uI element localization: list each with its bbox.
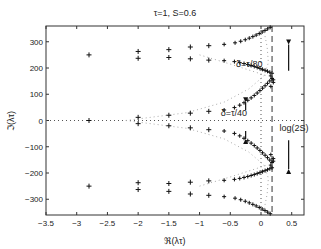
eigenvalue-marker	[268, 79, 272, 83]
eigenvalue-marker	[206, 193, 211, 198]
x-axis-label: ℜ(λτ)	[164, 236, 185, 246]
eigenvalue-marker	[263, 84, 267, 88]
eigenvalue-marker	[233, 41, 237, 45]
eigenvalue-marker	[255, 146, 259, 150]
eigenvalue-marker	[206, 178, 211, 183]
x-tick-label: −0.5	[222, 219, 238, 228]
eigenvalue-marker	[136, 49, 141, 54]
arrow-up-right-head	[286, 39, 291, 44]
eigenvalue-marker	[188, 125, 193, 130]
eigenvalue-marker	[252, 144, 256, 148]
y-tick-label: 100	[30, 90, 44, 99]
eigenvalue-marker	[232, 177, 236, 181]
eigenvalue-marker	[232, 131, 236, 135]
eigenvalue-marker	[243, 199, 247, 203]
eigenvalue-marker	[136, 56, 141, 61]
eigenvalue-marker	[238, 134, 242, 138]
eigenvalue-marker	[136, 115, 141, 120]
eigenvalue-marker	[206, 109, 211, 114]
eigenvalue-marker	[243, 38, 247, 42]
eigenvalue-marker	[242, 175, 246, 179]
eigenvalue-marker	[136, 121, 141, 126]
eigenvalue-marker	[265, 156, 269, 160]
eigenvalue-marker	[188, 45, 193, 50]
eigenvalue-marker	[249, 96, 253, 100]
eigenvalue-marker	[206, 58, 211, 63]
eigenvalue-marker	[166, 113, 171, 118]
eigenvalue-marker	[188, 56, 193, 61]
eigenvalue-marker	[166, 47, 171, 52]
y-tick-label: −200	[25, 169, 44, 178]
eigenvalue-marker	[247, 36, 251, 40]
eigenvalue-marker	[238, 176, 242, 180]
eigenvalue-marker	[188, 180, 193, 185]
x-tick-label: −1	[195, 219, 205, 228]
y-axis-label: ℑ(λτ)	[6, 111, 16, 131]
eigenvalue-marker	[249, 141, 253, 145]
branch-lower-b	[200, 165, 268, 186]
y-tick-label: 0	[39, 117, 44, 126]
eigenvalue-marker	[188, 192, 193, 197]
annotation: log(2S)	[279, 123, 308, 133]
x-tick-label: −2.5	[100, 219, 116, 228]
eigenvalue-marker	[268, 158, 272, 162]
eigenvalue-marker	[263, 153, 267, 157]
chart: τ=1, S=0.6 −3.5−3−2.5−2−1.5−1−0.500.5−30…	[0, 0, 321, 249]
eigenvalue-marker	[238, 103, 242, 107]
x-tick-label: −3	[72, 219, 82, 228]
eigenvalue-marker	[206, 127, 211, 132]
x-tick-label: 0	[259, 219, 264, 228]
chart-title: τ=1, S=0.6	[154, 8, 197, 18]
x-tick-label: −3.5	[38, 219, 54, 228]
x-tick-label: 0.5	[286, 219, 298, 228]
eigenvalue-marker	[166, 181, 171, 186]
eigenvalue-marker	[166, 123, 171, 128]
x-tick-label: −1.5	[161, 219, 177, 228]
eigenvalue-marker	[233, 196, 237, 200]
eigenvalue-marker	[239, 198, 243, 202]
eigenvalue-marker	[166, 55, 171, 60]
eigenvalue-marker	[87, 118, 92, 123]
eigenvalue-marker	[247, 201, 251, 205]
x-tick-label: −2	[134, 219, 144, 228]
eigenvalue-marker	[239, 39, 243, 43]
eigenvalue-marker	[87, 184, 92, 189]
eigenvalue-marker	[206, 43, 211, 48]
y-tick-label: −100	[25, 143, 44, 152]
eigenvalue-marker	[136, 187, 141, 192]
eigenvalue-marker	[258, 89, 262, 93]
eigenvalue-marker	[265, 81, 269, 85]
arrow-down-right-head	[286, 169, 291, 174]
eigenvalue-marker	[258, 148, 262, 152]
y-tick-label: −300	[25, 195, 44, 204]
annotation: δ=τ/80	[236, 59, 262, 69]
y-tick-label: 200	[30, 64, 44, 73]
y-tick-label: 300	[30, 38, 44, 47]
eigenvalue-marker	[166, 189, 171, 194]
eigenvalue-marker	[255, 91, 259, 95]
plot-area: −3.5−3−2.5−2−1.5−1−0.500.5−300−200−10001…	[25, 25, 308, 228]
eigenvalue-marker	[222, 195, 226, 199]
eigenvalue-marker	[252, 93, 256, 97]
branch-lower-a	[126, 121, 269, 210]
eigenvalue-marker	[136, 180, 141, 185]
eigenvalue-marker	[87, 52, 92, 57]
annotation: δ=τ/40	[221, 108, 247, 118]
eigenvalue-marker	[188, 111, 193, 116]
eigenvalue-marker	[222, 42, 226, 46]
eigenvalue-marker	[222, 129, 226, 133]
